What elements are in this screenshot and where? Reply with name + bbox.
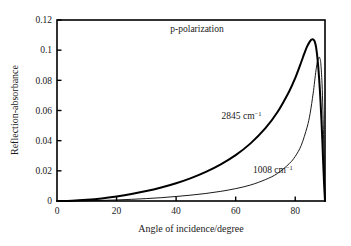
x-axis-title: Angle of incidence/degree [138, 223, 244, 234]
reflection-absorbance-plot: 00.020.040.060.080.10.12 020406080 2845 … [0, 0, 351, 246]
y-tick-label-3: 0.06 [35, 106, 52, 116]
y-axis-title: Reflection-absorbance [9, 64, 20, 155]
chart-figure: 00.020.040.060.080.10.12 020406080 2845 … [0, 0, 351, 246]
x-tick-label-4: 80 [290, 206, 300, 216]
x-tick-label-2: 40 [171, 206, 181, 216]
x-tick-label-1: 20 [112, 206, 122, 216]
x-tick-label-3: 60 [231, 206, 241, 216]
x-tick-label-0: 0 [55, 206, 60, 216]
y-tick-label-5: 0.1 [40, 45, 52, 55]
y-tick-label-4: 0.08 [35, 76, 52, 86]
y-tick-label-0: 0 [47, 196, 52, 206]
polarization-annotation: p-polarization [170, 24, 224, 34]
y-tick-label-2: 0.04 [35, 136, 52, 146]
y-tick-label-6: 0.12 [35, 15, 52, 25]
y-tick-label-1: 0.02 [35, 166, 52, 176]
